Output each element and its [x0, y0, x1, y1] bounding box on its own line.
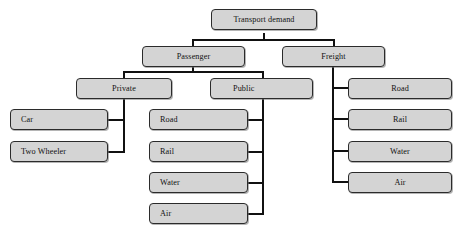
- node-freight-rail[interactable]: Rail: [348, 109, 452, 130]
- node-public-road[interactable]: Road: [149, 109, 248, 130]
- node-public[interactable]: Public: [210, 78, 313, 99]
- node-public-water-label: Water: [160, 178, 180, 187]
- node-private-car-label: Car: [21, 115, 33, 124]
- node-private-label: Private: [112, 84, 136, 93]
- node-passenger[interactable]: Passenger: [142, 46, 245, 67]
- node-public-rail-label: Rail: [160, 147, 174, 156]
- node-public-label: Public: [233, 84, 255, 93]
- node-freight[interactable]: Freight: [282, 46, 385, 67]
- node-public-water[interactable]: Water: [149, 172, 248, 193]
- node-private-car[interactable]: Car: [10, 109, 108, 130]
- node-private-two-wheeler[interactable]: Two Wheeler: [10, 141, 108, 162]
- node-private[interactable]: Private: [76, 78, 172, 99]
- node-freight-road[interactable]: Road: [348, 78, 452, 99]
- node-freight-label: Freight: [321, 52, 345, 61]
- transport-demand-tree-diagram: Transport demand Passenger Freight Priva…: [0, 0, 461, 236]
- node-public-air[interactable]: Air: [149, 203, 248, 224]
- node-public-air-label: Air: [160, 209, 171, 218]
- node-transport-demand[interactable]: Transport demand: [211, 9, 317, 30]
- node-transport-demand-label: Transport demand: [233, 15, 294, 24]
- node-public-road-label: Road: [160, 115, 178, 124]
- node-freight-water-label: Water: [390, 147, 410, 156]
- node-freight-water[interactable]: Water: [348, 141, 452, 162]
- node-freight-air-label: Air: [394, 178, 405, 187]
- node-freight-air[interactable]: Air: [348, 172, 452, 193]
- node-freight-rail-label: Rail: [393, 115, 407, 124]
- node-passenger-label: Passenger: [177, 52, 211, 61]
- node-freight-road-label: Road: [391, 84, 409, 93]
- node-public-rail[interactable]: Rail: [149, 141, 248, 162]
- node-private-two-wheeler-label: Two Wheeler: [21, 147, 66, 156]
